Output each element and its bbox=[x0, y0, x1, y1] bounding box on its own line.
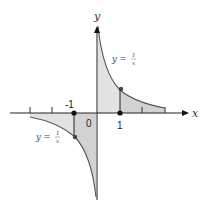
origin-label: 0 bbox=[86, 118, 92, 129]
x-axis-arrow-icon bbox=[182, 110, 189, 116]
point-x-1 bbox=[117, 110, 122, 115]
y-axis-label: y bbox=[93, 10, 101, 23]
svg-text:1: 1 bbox=[132, 52, 136, 58]
y-axis-arrow-icon bbox=[94, 26, 100, 33]
shaded-band-left bbox=[74, 113, 96, 195]
svg-text:x: x bbox=[56, 138, 60, 144]
tick-label-neg1: -1 bbox=[65, 99, 74, 110]
point-neg1-neg1 bbox=[73, 135, 77, 139]
svg-text:x: x bbox=[132, 60, 136, 66]
svg-text:y =: y = bbox=[35, 132, 51, 142]
point-x-neg1 bbox=[71, 110, 76, 115]
equation-label-right: y = 1 x bbox=[111, 52, 136, 66]
hyperbola-diagram: y x 0 -1 1 y = 1 x y = 1 x bbox=[0, 0, 207, 209]
x-axis-label: x bbox=[192, 107, 199, 120]
point-1-1 bbox=[119, 87, 123, 91]
equation-label-left: y = 1 x bbox=[35, 130, 60, 144]
tick-label-1: 1 bbox=[117, 120, 123, 131]
svg-text:1: 1 bbox=[56, 130, 60, 136]
svg-text:y =: y = bbox=[111, 54, 127, 64]
diagram-canvas: y x 0 -1 1 y = 1 x y = 1 x bbox=[0, 0, 207, 209]
